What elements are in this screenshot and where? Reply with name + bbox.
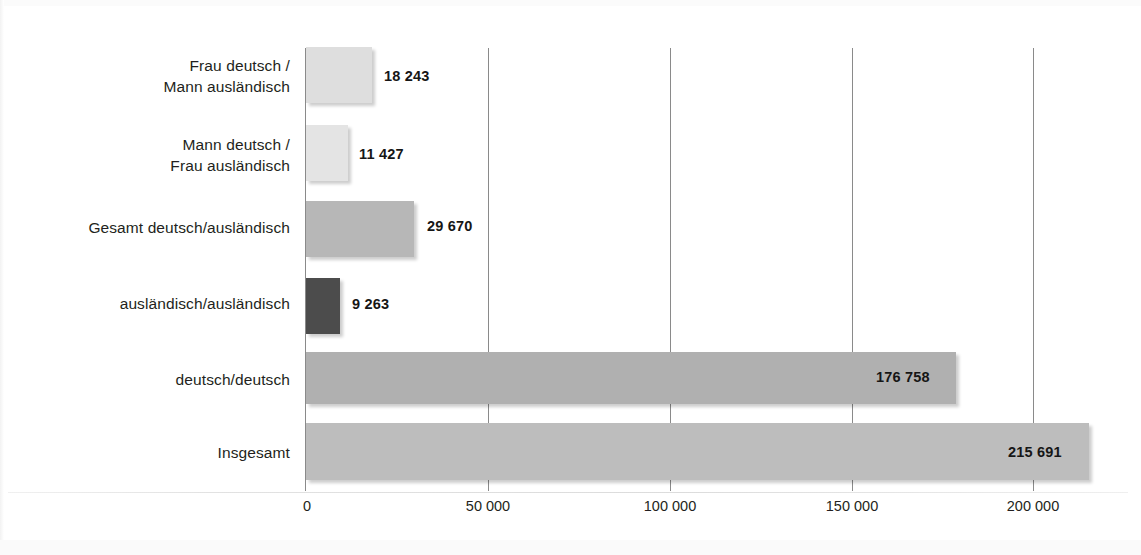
value-label-5: 215 691 [1008,444,1062,460]
bar-3 [306,278,340,334]
bar-2 [306,201,414,257]
category-label-2: Gesamt deutsch/ausländisch [20,217,290,238]
value-label-4: 176 758 [876,369,930,385]
value-label-1: 11 427 [359,146,404,162]
category-label-3: ausländisch/ausländisch [20,293,290,314]
category-label-4: deutsch/deutsch [20,369,290,390]
bar-chart: Frau deutsch / Mann ausländisch 18 243 M… [0,0,1141,555]
plot-area: Frau deutsch / Mann ausländisch 18 243 M… [0,0,1141,555]
axis-tick-label-200000: 200 000 [1007,498,1059,514]
category-label-1: Mann deutsch / Frau ausländisch [20,134,290,176]
axis-tick-label-0: 0 [303,498,311,514]
axis-tick-label-150000: 150 000 [826,498,878,514]
axis-tick-label-50000: 50 000 [466,498,510,514]
bar-1 [306,125,348,181]
value-label-2: 29 670 [427,218,473,234]
bar-0 [306,47,372,103]
category-label-5: Insgesamt [20,442,290,463]
bar-5 [306,423,1089,480]
axis-tick-label-100000: 100 000 [644,498,696,514]
bar-4 [306,352,956,404]
value-label-3: 9 263 [352,296,389,312]
axis-baseline-horizontal [8,492,1128,493]
value-label-0: 18 243 [384,68,430,84]
category-label-0: Frau deutsch / Mann ausländisch [20,55,290,97]
